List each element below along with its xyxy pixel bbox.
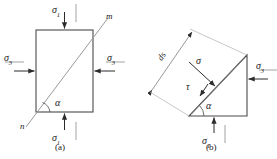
label-angle-alpha-b: α	[206, 101, 211, 111]
diagram-svg	[0, 0, 277, 159]
caption-panel-a: (a)	[55, 142, 65, 152]
tau-shear-arrow	[200, 84, 208, 96]
section-plane-line-mn	[26, 18, 108, 127]
ds-leader-upper	[190, 29, 247, 55]
panel-a-geometry	[5, 4, 125, 140]
panel-b-geometry	[150, 29, 277, 143]
label-sigma3-left-a: σ3	[4, 53, 12, 66]
label-sigma-normal: σ	[196, 56, 201, 66]
stress-element-rectangle	[36, 30, 93, 112]
label-tau-shear: τ	[186, 82, 190, 92]
label-angle-alpha-a: α	[55, 98, 60, 108]
sigma-normal-arrow	[189, 62, 215, 86]
label-plane-end-m: m	[106, 12, 113, 21]
figure-canvas: σ1 σ1 σ3 σ3 m n α (a) ds σ τ σ3 σ1 α (b)	[0, 0, 277, 159]
caption-panel-b: (b)	[206, 142, 217, 152]
label-sigma3-right-a: σ3	[107, 53, 115, 66]
label-plane-end-n: n	[20, 122, 25, 131]
angle-arc-alpha-b	[200, 106, 205, 117]
label-sigma1-top-a: σ1	[52, 5, 60, 18]
label-sigma3-right-b: σ3	[256, 61, 264, 74]
ds-leader-lower	[150, 92, 189, 116]
